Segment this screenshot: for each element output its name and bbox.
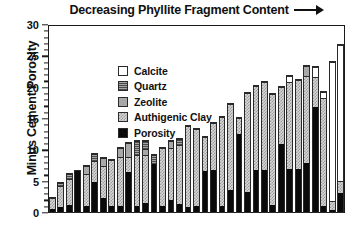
- bar: [286, 75, 293, 213]
- bar: [49, 197, 56, 213]
- bar-segment-zeolite: [304, 66, 309, 76]
- bar: [142, 140, 149, 213]
- bar-segment-zeolite: [84, 166, 89, 173]
- bar-segment-authigenic-clay: [92, 161, 97, 182]
- bar: [100, 157, 107, 213]
- bar-segment-porosity: [58, 207, 63, 212]
- bar-segment-porosity: [67, 205, 72, 212]
- bar: [159, 147, 166, 213]
- plot-area: CalciteQuartzZeoliteAuthigenic ClayPoros…: [48, 25, 345, 213]
- bar-segment-porosity: [101, 198, 106, 212]
- bar-segment-porosity: [330, 210, 335, 212]
- bar: [125, 142, 132, 213]
- bar: [236, 117, 243, 213]
- bar-segment-porosity: [304, 163, 309, 212]
- right-arrow-icon: [294, 5, 324, 15]
- bar-segment-quartz: [152, 155, 157, 164]
- bar: [151, 154, 158, 213]
- y-axis-tick-label: 5: [33, 176, 39, 188]
- bar-segment-porosity: [135, 206, 140, 212]
- bar: [91, 153, 98, 213]
- bar-segment-authigenic-clay: [330, 201, 335, 210]
- bar-segment-authigenic-clay: [270, 94, 275, 205]
- bar-segment-authigenic-clay: [287, 82, 292, 169]
- chart-legend: CalciteQuartzZeoliteAuthigenic ClayPoros…: [118, 63, 212, 141]
- bar: [219, 116, 226, 213]
- bar-segment-calcite: [287, 76, 292, 83]
- bar-segment-authigenic-clay: [126, 157, 131, 172]
- bar-segment-authigenic-clay: [67, 179, 72, 206]
- bar-segment-porosity: [321, 206, 326, 212]
- bar-segment-porosity: [50, 209, 55, 212]
- bar-segment-porosity: [254, 170, 259, 212]
- bar: [261, 81, 268, 213]
- y-axis-tick-label: 20: [27, 82, 39, 94]
- y-axis-tick-label: 0: [33, 207, 39, 219]
- bar-segment-authigenic-clay: [313, 77, 318, 107]
- bar-segment-zeolite: [118, 148, 123, 158]
- bar-segment-authigenic-clay: [118, 157, 123, 206]
- bar-segment-porosity: [169, 200, 174, 212]
- bar: [168, 140, 175, 213]
- legend-label: Calcite: [134, 65, 168, 77]
- bar-segment-authigenic-clay: [135, 155, 140, 206]
- bar-segment-porosity: [143, 203, 148, 212]
- bar-segment-zeolite: [101, 158, 106, 166]
- y-axis-tick-label: 10: [27, 144, 39, 156]
- legend-item: Quartz: [118, 79, 212, 95]
- bar-segment-porosity: [194, 206, 199, 212]
- bar-segment-authigenic-clay: [321, 98, 326, 206]
- bar-segment-authigenic-clay: [245, 93, 250, 192]
- bar: [108, 159, 115, 213]
- bar-segment-porosity: [313, 107, 318, 212]
- bar-segment-authigenic-clay: [177, 145, 182, 204]
- bar-segment-authigenic-clay: [194, 129, 199, 205]
- bar: [74, 170, 81, 213]
- legend-swatch-quartz: [118, 81, 128, 91]
- bar: [83, 165, 90, 213]
- bar-segment-authigenic-clay: [58, 186, 63, 208]
- bar-segment-porosity: [279, 144, 284, 212]
- bar-segment-quartz: [135, 141, 140, 155]
- bar-segment-authigenic-clay: [101, 166, 106, 199]
- bar: [269, 93, 276, 213]
- bar-segment-porosity: [186, 207, 191, 212]
- bar: [134, 140, 141, 213]
- bar-segment-porosity: [270, 205, 275, 212]
- bar-segment-calcite: [330, 62, 335, 201]
- bar-segment-porosity: [237, 134, 242, 212]
- legend-swatch-zeolite: [118, 97, 128, 107]
- bar-segment-porosity: [118, 206, 123, 212]
- bar-segment-authigenic-clay: [169, 148, 174, 200]
- legend-swatch-porosity: [118, 128, 128, 138]
- bar: [253, 85, 260, 213]
- bar: [176, 138, 183, 213]
- chart-title-text: Decreasing Phyllite Fragment Content: [69, 3, 288, 17]
- bar: [57, 182, 64, 213]
- bar-segment-authigenic-clay: [279, 87, 284, 144]
- bar-segment-authigenic-clay: [109, 160, 114, 206]
- bar-segment-authigenic-clay: [84, 174, 89, 206]
- bar-segment-authigenic-clay: [160, 148, 165, 206]
- bar-segment-porosity: [75, 171, 80, 212]
- bar-segment-porosity: [177, 204, 182, 212]
- legend-label: Quartz: [134, 80, 167, 92]
- bar-segment-porosity: [296, 169, 301, 212]
- bar-segment-porosity: [126, 172, 131, 212]
- bar: [202, 136, 209, 213]
- bar-segment-porosity: [228, 190, 233, 212]
- bar-segment-porosity: [109, 206, 114, 212]
- bar-segment-zeolite: [169, 141, 174, 148]
- bar-segment-quartz: [143, 141, 148, 148]
- bar-segment-calcite: [313, 67, 318, 77]
- bar-segment-porosity: [220, 206, 225, 212]
- bar: [278, 86, 285, 213]
- bar: [117, 147, 124, 213]
- legend-item: Porosity: [118, 125, 212, 141]
- legend-swatch-authigenic-clay: [118, 112, 128, 122]
- legend-label: Authigenic Clay: [134, 111, 212, 123]
- bar-segment-porosity: [84, 206, 89, 212]
- legend-item: Calcite: [118, 63, 212, 79]
- bar: [337, 44, 344, 213]
- bar-segment-porosity: [287, 169, 292, 212]
